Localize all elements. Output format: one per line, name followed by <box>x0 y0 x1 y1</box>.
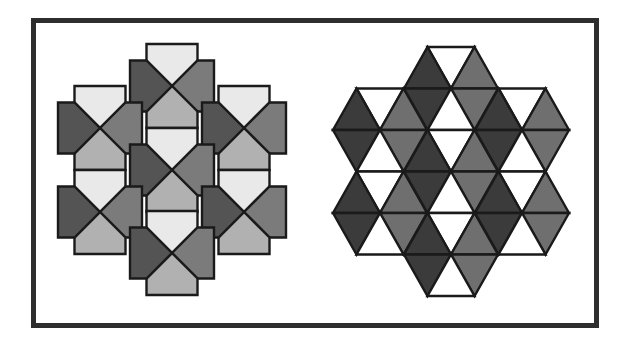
right-triangle-tiling <box>333 47 569 296</box>
tiling-figure <box>0 0 631 342</box>
left-pentagon-tiling <box>58 44 286 295</box>
